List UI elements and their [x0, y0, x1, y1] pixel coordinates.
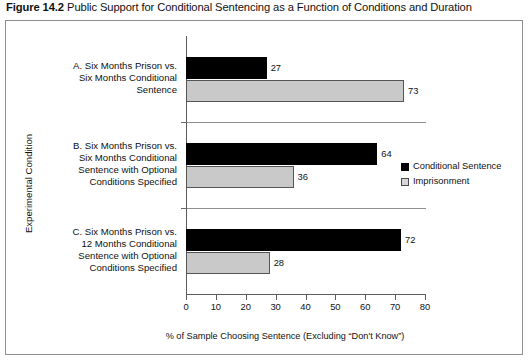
bar-value-label: 64 — [381, 149, 391, 159]
bar-value-label: 27 — [271, 63, 281, 73]
bar-a-imprisonment[interactable] — [186, 80, 404, 102]
bar-value-label: 72 — [405, 235, 415, 245]
x-axis-tick-label: 70 — [382, 301, 408, 312]
x-axis-tick-label: 50 — [322, 301, 348, 312]
bar-b-imprisonment[interactable] — [186, 166, 294, 188]
bar-value-label: 73 — [408, 86, 418, 96]
legend-swatch-icon-conditional-sentence — [401, 163, 409, 171]
x-axis-title: % of Sample Choosing Sentence (Excluding… — [120, 331, 450, 341]
bar-c-conditional-sentence[interactable] — [186, 229, 401, 251]
x-axis-tick — [186, 295, 187, 300]
x-axis-tick-label: 10 — [203, 301, 229, 312]
category-label-line: Conditions Specified — [25, 262, 177, 274]
legend-swatch-icon-imprisonment — [401, 178, 409, 186]
group-separator — [186, 122, 426, 123]
x-axis-tick-label: 30 — [263, 301, 289, 312]
legend-label-imprisonment: Imprisonment — [413, 175, 469, 188]
x-axis-tick — [395, 295, 396, 300]
x-axis-tick-label: 80 — [412, 301, 438, 312]
bar-a-conditional-sentence[interactable] — [186, 57, 267, 79]
figure-title: Figure 14.2 Public Support for Condition… — [6, 0, 526, 16]
legend-item-imprisonment[interactable]: Imprisonment — [401, 175, 501, 188]
figure-caption: Public Support for Conditional Sentencin… — [67, 1, 472, 13]
category-label-line: 12 Months Conditional — [25, 238, 177, 250]
x-axis-tick — [365, 295, 366, 300]
category-label-line: Conditions Specified — [25, 176, 177, 188]
category-label-line: Six Months Conditional — [25, 72, 177, 84]
chart-legend: Conditional Sentence Imprisonment — [401, 160, 501, 190]
category-label-line: B. Six Months Prison vs. — [25, 140, 177, 152]
category-label-a: A. Six Months Prison vs.Six Months Condi… — [25, 60, 177, 97]
x-axis-tick — [335, 295, 336, 300]
x-axis-tick — [276, 295, 277, 300]
bar-b-conditional-sentence[interactable] — [186, 143, 377, 165]
bar-value-label: 36 — [298, 172, 308, 182]
x-axis-tick-label: 40 — [293, 301, 319, 312]
x-axis-tick — [246, 295, 247, 300]
category-label-line: Sentence with Optional — [25, 164, 177, 176]
group-separator-tick — [181, 122, 187, 123]
group-separator — [186, 208, 426, 209]
legend-label-conditional-sentence: Conditional Sentence — [413, 160, 501, 173]
group-separator-tick — [181, 208, 187, 209]
category-label-line: Sentence with Optional — [25, 250, 177, 262]
category-label-line: Six Months Conditional — [25, 152, 177, 164]
x-axis-tick-label: 0 — [173, 301, 199, 312]
x-axis-tick-label: 20 — [233, 301, 259, 312]
x-axis-tick — [425, 295, 426, 300]
bar-value-label: 28 — [274, 258, 284, 268]
category-label-c: C. Six Months Prison vs.12 Months Condit… — [25, 226, 177, 275]
x-axis-tick-label: 60 — [352, 301, 378, 312]
category-label-line: C. Six Months Prison vs. — [25, 226, 177, 238]
category-label-line: A. Six Months Prison vs. — [25, 60, 177, 72]
category-label-b: B. Six Months Prison vs.Six Months Condi… — [25, 140, 177, 189]
bar-c-imprisonment[interactable] — [186, 252, 270, 274]
legend-item-conditional-sentence[interactable]: Conditional Sentence — [401, 160, 501, 173]
x-axis-tick — [306, 295, 307, 300]
x-axis-tick — [216, 295, 217, 300]
figure-number: Figure 14.2 — [6, 1, 64, 13]
category-label-line: Sentence — [25, 84, 177, 96]
